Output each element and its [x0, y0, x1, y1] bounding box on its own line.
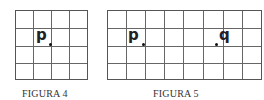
figure-4-caption: FIGURA 4	[22, 88, 68, 99]
figure-5-caption: FIGURA 5	[153, 88, 199, 99]
point-p-marker	[142, 43, 145, 46]
grid-line	[108, 46, 261, 47]
point-p-marker	[49, 43, 52, 46]
grid-line	[126, 11, 127, 79]
point-q-label: q	[219, 28, 230, 43]
grid-line	[164, 11, 165, 79]
point-p-label: p	[128, 28, 139, 43]
grid-line	[183, 11, 184, 79]
grid-line	[242, 11, 243, 79]
grid-line	[145, 11, 146, 79]
point-q-marker	[215, 43, 218, 46]
grid-line	[223, 11, 224, 79]
figure-5-grid	[107, 10, 262, 80]
grid-line	[69, 11, 70, 79]
grid-line	[108, 63, 261, 64]
point-p-label: p	[36, 28, 47, 43]
grid-line	[203, 11, 204, 79]
grid-line	[33, 11, 34, 79]
